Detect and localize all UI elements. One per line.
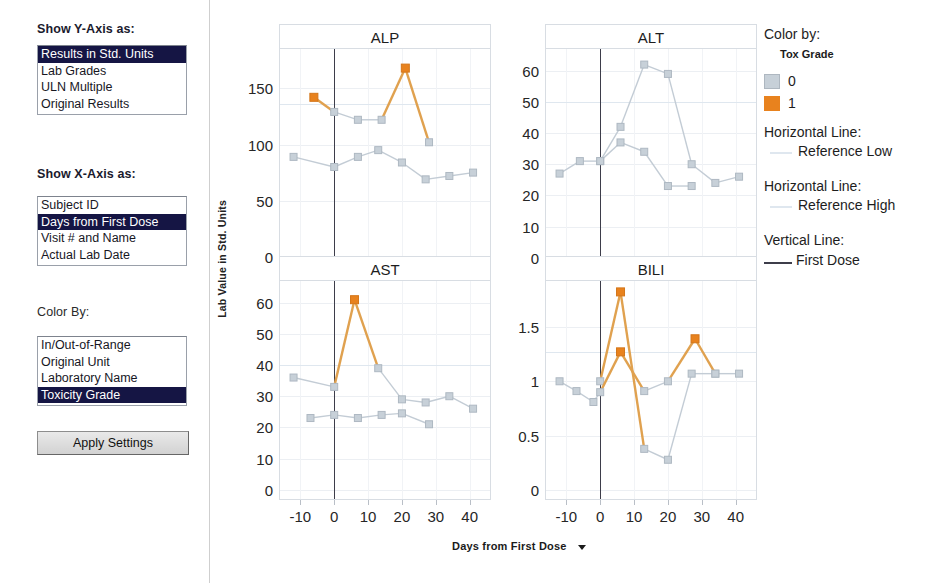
x-tick-mark [702,500,703,505]
data-point-marker[interactable] [290,153,297,160]
data-point-marker[interactable] [597,378,604,385]
data-point-marker[interactable] [446,393,453,400]
data-point-marker[interactable] [736,173,743,180]
legend-grade-1[interactable]: 1 [764,95,796,111]
plot-area-bili[interactable] [545,280,757,500]
y-axis-option-0[interactable]: Results in Std. Units [38,46,186,63]
data-point-marker[interactable] [375,365,382,372]
data-point-marker[interactable] [597,389,604,396]
color-by-option-0[interactable]: In/Out-of-Range [38,337,186,354]
y-axis-listbox[interactable]: Results in Std. UnitsLab GradesULN Multi… [37,45,187,115]
x-axis-listbox[interactable]: Subject IDDays from First DoseVisit # an… [37,196,187,266]
y-axis-option-3[interactable]: Original Results [38,96,186,113]
data-point-marker[interactable] [331,411,338,418]
data-point-marker[interactable] [576,158,583,165]
series-segment [695,339,715,374]
x-tick-label: 10 [360,508,377,525]
series-layer [546,281,756,499]
color-by-option-2[interactable]: Laboratory Name [38,370,186,387]
y-tick-label: 50 [522,93,539,110]
data-point-marker[interactable] [664,70,671,77]
data-point-marker[interactable] [351,296,359,304]
data-point-marker[interactable] [617,123,624,130]
data-point-marker[interactable] [331,163,338,170]
lab-panel-grid: ALPALTASTBILI [209,0,749,583]
data-point-marker[interactable] [641,388,648,395]
data-point-marker[interactable] [331,108,338,115]
legend-panel: Color by: Tox Grade 0 1 Horizontal Line:… [756,0,952,583]
legend-hline-high-label: Reference High [798,197,895,213]
data-point-marker[interactable] [664,183,671,190]
data-point-marker[interactable] [664,456,671,463]
data-point-marker[interactable] [688,161,695,168]
data-point-marker[interactable] [310,93,318,101]
x-tick-mark [470,500,471,505]
color-by-option-3[interactable]: Toxicity Grade [38,387,186,404]
data-point-marker[interactable] [378,411,385,418]
x-axis-option-0[interactable]: Subject ID [38,197,186,214]
data-point-marker[interactable] [590,398,597,405]
y-tick-label: 150 [248,80,273,97]
plot-area-ast[interactable] [279,280,491,500]
apply-settings-button[interactable]: Apply Settings [37,431,189,455]
legend-vline-label: First Dose [796,252,860,268]
data-point-marker[interactable] [641,61,648,68]
data-point-marker[interactable] [617,348,625,356]
data-point-marker[interactable] [617,288,625,296]
data-point-marker[interactable] [331,383,338,390]
x-axis-option-2[interactable]: Visit # and Name [38,230,186,247]
data-point-marker[interactable] [426,421,433,428]
data-point-marker[interactable] [617,139,624,146]
data-point-marker[interactable] [688,183,695,190]
data-point-marker[interactable] [375,147,382,154]
x-axis-title[interactable]: Days from First Dose [452,540,586,552]
data-point-marker[interactable] [398,396,405,403]
color-by-listbox[interactable]: In/Out-of-RangeOriginal UnitLaboratory N… [37,336,187,406]
series-segment [294,157,335,167]
series-segment [621,65,645,127]
data-point-marker[interactable] [688,370,695,377]
series-layer [546,49,756,267]
data-point-marker[interactable] [378,116,385,123]
data-point-marker[interactable] [398,410,405,417]
data-point-marker[interactable] [422,176,429,183]
data-point-marker[interactable] [736,370,743,377]
data-point-marker[interactable] [426,139,433,146]
data-point-marker[interactable] [290,374,297,381]
data-point-marker[interactable] [401,64,409,72]
chevron-down-icon[interactable] [578,545,586,550]
y-axis-option-1[interactable]: Lab Grades [38,63,186,80]
legend-grade-0[interactable]: 0 [764,73,796,89]
y-axis-option-2[interactable]: ULN Multiple [38,79,186,96]
data-point-marker[interactable] [712,370,719,377]
data-point-marker[interactable] [691,335,699,343]
data-point-marker[interactable] [556,378,563,385]
data-point-marker[interactable] [641,445,648,452]
y-tick-label: 20 [256,419,273,436]
color-by-option-1[interactable]: Original Unit [38,354,186,371]
x-tick-label: 40 [727,508,744,525]
data-point-marker[interactable] [556,170,563,177]
y-tick-label: 60 [522,62,539,79]
data-point-marker[interactable] [597,158,604,165]
data-point-marker[interactable] [354,116,361,123]
data-point-marker[interactable] [573,388,580,395]
data-point-marker[interactable] [664,378,671,385]
plot-area-alp[interactable] [279,48,491,268]
data-point-marker[interactable] [712,179,719,186]
data-point-marker[interactable] [398,159,405,166]
x-axis-option-1[interactable]: Days from First Dose [38,214,186,231]
data-point-marker[interactable] [470,405,477,412]
x-axis-option-3[interactable]: Actual Lab Date [38,247,186,264]
data-point-marker[interactable] [422,399,429,406]
x-tick-label: -10 [289,508,311,525]
x-tick-label: 0 [596,508,604,525]
data-point-marker[interactable] [470,169,477,176]
plot-area-alt[interactable] [545,48,757,268]
data-point-marker[interactable] [446,172,453,179]
data-point-marker[interactable] [307,415,314,422]
data-point-marker[interactable] [354,153,361,160]
data-point-marker[interactable] [354,415,361,422]
data-point-marker[interactable] [641,148,648,155]
series-segment [600,292,620,381]
